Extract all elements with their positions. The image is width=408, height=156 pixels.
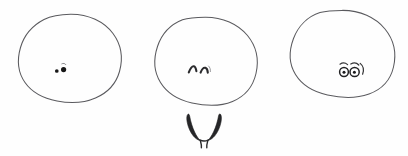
blob-left-face [55, 63, 66, 72]
eye-pupil-right [353, 71, 356, 74]
blob-center-outline [155, 17, 257, 105]
horn-base-left [200, 141, 201, 148]
eye-dot-left [55, 69, 59, 73]
blob-right-face [340, 63, 364, 77]
sketch-svg [0, 0, 408, 156]
eye-pupil-left [343, 71, 346, 74]
horn-bridge [200, 140, 209, 141]
horn-right [208, 114, 221, 141]
eye-dot-right [61, 67, 66, 72]
blob-left-outline [19, 14, 122, 102]
blob-right [290, 10, 394, 97]
blob-left [19, 14, 122, 102]
blob-center-face [189, 66, 211, 73]
drawing-canvas: Three egg-shaped outlines each with a sm… [0, 0, 408, 156]
horn-left [187, 114, 200, 141]
eyebrow-left-icon [340, 63, 348, 64]
eye-arch-left-icon [189, 66, 197, 72]
eye-side-arc-icon [360, 63, 363, 74]
eye-highlight-stroke-icon [209, 66, 211, 72]
horn-base-right [207, 141, 208, 148]
horns-pair [187, 114, 222, 148]
blob-right-outline [290, 10, 394, 97]
eye-arch-right-icon [201, 68, 208, 73]
eyebrow-right-icon [351, 63, 359, 65]
eyebrow-tick-icon [62, 63, 66, 64]
blob-center [155, 17, 257, 105]
